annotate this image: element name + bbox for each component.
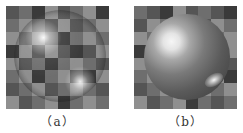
checker-tile xyxy=(224,19,237,32)
checker-tile xyxy=(211,96,224,109)
checker-tile xyxy=(96,6,109,19)
checker-tile xyxy=(224,6,237,19)
checker-tile xyxy=(224,83,237,96)
checker-tile xyxy=(96,96,109,109)
checker-tile xyxy=(134,32,147,45)
checker-tile xyxy=(6,96,19,109)
checker-tile xyxy=(211,6,224,19)
checker-tile xyxy=(134,6,147,19)
checker-tile xyxy=(6,83,19,96)
checker-tile xyxy=(134,83,147,96)
caption-b: （b） xyxy=(134,112,237,129)
checker-tile xyxy=(198,96,211,109)
checker-tile xyxy=(160,96,173,109)
checker-tile xyxy=(96,83,109,96)
shaded-sphere xyxy=(144,14,230,100)
checker-tile xyxy=(19,96,32,109)
glass-sphere xyxy=(14,10,106,102)
checker-tile xyxy=(134,19,147,32)
checker-tile xyxy=(83,96,96,109)
caption-a: （a） xyxy=(6,112,109,129)
checker-tile xyxy=(224,96,237,109)
checker-tile xyxy=(147,96,160,109)
checker-tile xyxy=(134,96,147,109)
checker-tile xyxy=(6,6,19,19)
panel-b-image xyxy=(134,6,237,109)
checker-tile xyxy=(6,19,19,32)
checker-tile xyxy=(147,6,160,19)
checker-tile xyxy=(134,70,147,83)
checker-tile xyxy=(19,6,32,19)
panel-a-image xyxy=(6,6,109,109)
